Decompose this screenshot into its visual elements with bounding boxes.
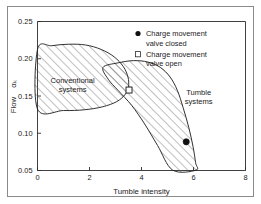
y-tick-label: 0.05 [18, 166, 32, 175]
y-tick-label: 0.20 [18, 54, 32, 63]
y-tick-label: 0.25 [18, 17, 32, 26]
region-label-tumble: Tumble systems [185, 88, 213, 106]
x-tick-label: 0 [35, 173, 39, 182]
y-tick-label: 0.10 [18, 129, 32, 138]
x-tick-label: 6 [191, 173, 195, 182]
y-tick-label: 0.15 [18, 92, 32, 101]
x-axis-tick-labels: 02468 [35, 173, 247, 182]
y-axis-title: Flow αₖ [9, 80, 18, 113]
data-point-valve-closed [183, 139, 189, 145]
region-label-conventional-line2: systems [59, 85, 87, 94]
data-point-valve-open [126, 87, 132, 93]
region-label-tumble-line1: Tumble [186, 88, 211, 97]
region-tumble-systems [103, 61, 198, 173]
x-tick-label: 4 [139, 173, 143, 182]
x-axis-ticks [38, 167, 246, 171]
figure-container: 02468 0.050.100.150.200.25 Conventional … [0, 0, 261, 204]
legend-marker-open-square-icon [135, 52, 140, 57]
chart-legend: Charge movement valve closed Charge move… [135, 29, 206, 68]
y-axis-tick-labels: 0.050.100.150.200.25 [18, 17, 32, 175]
x-tick-label: 2 [87, 173, 91, 182]
y-axis-title-symbol: αₖ [9, 80, 18, 88]
region-label-tumble-line2: systems [185, 97, 213, 106]
y-axis-title-text: Flow [9, 96, 18, 113]
legend-item-0-line2: valve closed [146, 39, 187, 48]
legend-marker-filled-circle-icon [135, 31, 140, 36]
chart-canvas: 02468 0.050.100.150.200.25 Conventional … [0, 0, 261, 204]
legend-item-0-line1: Charge movement [146, 29, 207, 38]
legend-item-1-line1: Charge movement [146, 50, 207, 59]
region-label-conventional-line1: Conventional [50, 76, 95, 85]
legend-item-1-line2: valve open [146, 59, 182, 68]
x-axis-title: Tumble intensity [113, 187, 170, 196]
x-tick-label: 8 [243, 173, 247, 182]
